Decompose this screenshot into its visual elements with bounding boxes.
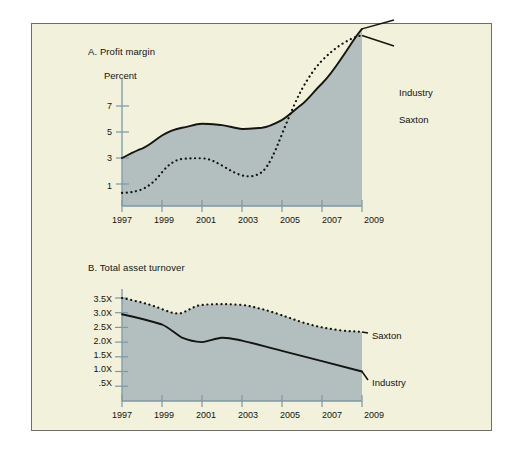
panel-total-asset-turnover: B. Total asset turnover 3.5X 3.0X 2.5X 2… [32, 234, 493, 432]
panel-profit-margin: A. Profit margin Percent 7 5 3 1 1997 19… [32, 24, 493, 234]
panel-b-area-saxton [122, 298, 362, 401]
panel-a-leader-saxton [362, 36, 394, 47]
panel-a-leader-industry [362, 20, 394, 29]
figure-root: A. Profit margin Percent 7 5 3 1 1997 19… [0, 0, 520, 453]
panel-b-leader-saxton [362, 332, 368, 333]
panel-b-plot [32, 234, 493, 432]
figure-frame: A. Profit margin Percent 7 5 3 1 1997 19… [31, 23, 492, 431]
panel-a-area-industry [122, 29, 362, 206]
panel-b-leader-industry [362, 372, 368, 381]
panel-a-plot [32, 24, 493, 234]
